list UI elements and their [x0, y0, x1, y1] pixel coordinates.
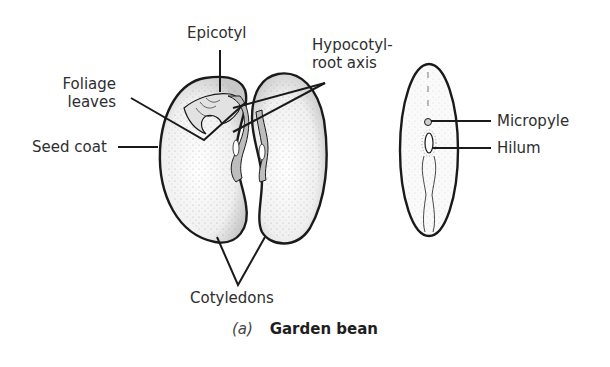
label-hypocotyl-line1: Hypocotyl- [312, 36, 393, 54]
label-micropyle: Micropyle [497, 112, 569, 130]
label-cotyledons: Cotyledons [190, 289, 274, 307]
label-hilum: Hilum [497, 139, 541, 157]
label-seed-coat: Seed coat [32, 138, 107, 156]
caption-title: Garden bean [270, 320, 378, 338]
whole-bean-side-view [400, 64, 458, 236]
left-cotyledon [160, 77, 249, 243]
label-foliage-line2: leaves [50, 93, 116, 111]
figure-caption: (a) Garden bean [232, 320, 378, 338]
caption-part-letter: (a) [232, 320, 253, 338]
label-foliage-leaves: Foliage leaves [50, 75, 116, 111]
label-epicotyl: Epicotyl [187, 24, 247, 42]
label-foliage-line1: Foliage [50, 75, 116, 93]
label-hypocotyl-line2: root axis [312, 54, 393, 72]
bean-diagram [0, 0, 610, 367]
label-hypocotyl-root-axis: Hypocotyl- root axis [312, 36, 393, 72]
